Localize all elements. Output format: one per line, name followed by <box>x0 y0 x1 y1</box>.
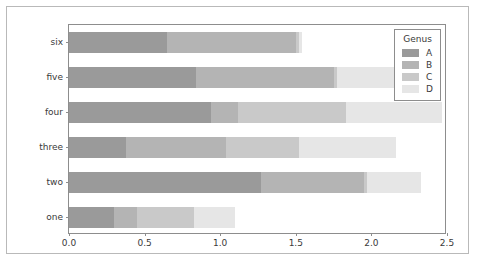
figure-caption <box>10 258 310 272</box>
bar-segment-one-A[interactable] <box>69 207 114 228</box>
x-tick-label-2.5: 2.5 <box>440 238 454 248</box>
legend[interactable]: Genus ABCD <box>394 29 441 101</box>
bar-segment-five-B[interactable] <box>196 67 334 88</box>
bar-segment-four-B[interactable] <box>211 102 238 123</box>
y-tick-mark-one <box>66 217 69 218</box>
legend-items: ABCD <box>402 47 433 95</box>
bar-segment-five-A[interactable] <box>69 67 196 88</box>
legend-swatch-D <box>402 85 419 93</box>
bar-two[interactable]: two <box>69 172 421 193</box>
bar-segment-three-A[interactable] <box>69 137 126 158</box>
bar-six[interactable]: six <box>69 32 302 53</box>
x-tick-mark-1.5 <box>296 233 297 236</box>
figure-panel: sixfivefourthreetwoone 0.00.51.01.52.02.… <box>6 6 469 254</box>
x-tick-label-1.0: 1.0 <box>213 238 227 248</box>
legend-swatch-A <box>402 49 419 57</box>
y-tick-mark-three <box>66 147 69 148</box>
bar-segment-four-C[interactable] <box>238 102 345 123</box>
bar-segment-three-B[interactable] <box>126 137 226 158</box>
legend-label-B: B <box>426 59 432 71</box>
bar-three[interactable]: three <box>69 137 396 158</box>
bar-segment-six-A[interactable] <box>69 32 167 53</box>
bar-one[interactable]: one <box>69 207 235 228</box>
bar-segment-one-D[interactable] <box>194 207 235 228</box>
bar-segment-four-A[interactable] <box>69 102 211 123</box>
legend-swatch-B <box>402 61 419 69</box>
y-tick-label-three: three <box>39 137 63 158</box>
bar-segment-six-D[interactable] <box>299 32 302 53</box>
bar-segment-two-D[interactable] <box>367 172 421 193</box>
bar-segment-two-A[interactable] <box>69 172 261 193</box>
bar-segment-one-B[interactable] <box>114 207 137 228</box>
x-tick-label-0.5: 0.5 <box>137 238 151 248</box>
bar-segment-four-D[interactable] <box>346 102 443 123</box>
y-tick-label-two: two <box>47 172 63 193</box>
y-tick-label-five: five <box>46 67 63 88</box>
bar-segment-three-D[interactable] <box>299 137 396 158</box>
bar-segment-one-C[interactable] <box>137 207 194 228</box>
legend-title: Genus <box>402 34 433 44</box>
legend-item-C[interactable]: C <box>402 71 433 83</box>
bar-four[interactable]: four <box>69 102 442 123</box>
y-tick-label-four: four <box>45 102 63 123</box>
bar-five[interactable]: five <box>69 67 424 88</box>
x-tick-mark-2.0 <box>371 233 372 236</box>
y-tick-mark-five <box>66 77 69 78</box>
x-tick-label-0.0: 0.0 <box>62 238 76 248</box>
legend-label-A: A <box>426 47 432 59</box>
plot-area: sixfivefourthreetwoone 0.00.51.01.52.02.… <box>68 24 446 234</box>
legend-label-D: D <box>426 83 433 95</box>
legend-item-A[interactable]: A <box>402 47 433 59</box>
y-tick-label-six: six <box>50 32 63 53</box>
x-tick-label-1.5: 1.5 <box>289 238 303 248</box>
legend-label-C: C <box>426 71 432 83</box>
legend-swatch-C <box>402 73 419 81</box>
y-tick-mark-four <box>66 112 69 113</box>
bar-segment-three-C[interactable] <box>226 137 299 158</box>
y-tick-label-one: one <box>46 207 63 228</box>
legend-item-D[interactable]: D <box>402 83 433 95</box>
legend-item-B[interactable]: B <box>402 59 433 71</box>
x-tick-mark-2.5 <box>447 233 448 236</box>
x-tick-mark-0.5 <box>145 233 146 236</box>
x-tick-mark-0.0 <box>69 233 70 236</box>
bar-segment-two-B[interactable] <box>261 172 364 193</box>
y-tick-mark-two <box>66 182 69 183</box>
y-tick-mark-six <box>66 42 69 43</box>
bar-segment-six-B[interactable] <box>167 32 296 53</box>
x-tick-label-2.0: 2.0 <box>364 238 378 248</box>
x-tick-mark-1.0 <box>220 233 221 236</box>
